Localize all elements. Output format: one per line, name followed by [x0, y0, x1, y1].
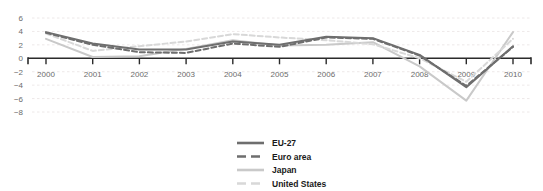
y-axis-tick-label: −8: [14, 108, 24, 117]
x-axis-tick-label: 2002: [131, 70, 149, 79]
line-chart-svg: 6420−2−4−6−8 200020012002200320042005200…: [0, 0, 543, 191]
legend-label-eu-27[interactable]: EU-27: [272, 138, 296, 148]
y-axis-tick-label: −4: [14, 81, 24, 90]
x-axis-tick-label: 2001: [84, 70, 102, 79]
y-axis-tick-label: −2: [14, 68, 24, 77]
series-group: [46, 32, 513, 100]
x-axis-tick-label: 2006: [317, 70, 335, 79]
x-axis-tick-label: 2003: [177, 70, 195, 79]
y-axis-tick-label: 2: [19, 41, 24, 50]
series-line-japan: [46, 32, 513, 100]
gridlines-group: [32, 18, 531, 112]
chart-figure: Figure 1: Real GDP growth rate (% change…: [0, 0, 543, 191]
y-axis-tick-label: 6: [19, 14, 24, 23]
x-axis-tick-label: 2004: [224, 70, 242, 79]
y-axis-tick-label: 0: [19, 54, 24, 63]
legend-label-euro-area[interactable]: Euro area: [272, 152, 311, 162]
x-axis-tick-label: 2000: [37, 70, 55, 79]
legend-group: EU-27Euro areaJapanUnited States: [237, 138, 327, 189]
y-axis-tick-label: −6: [14, 95, 24, 104]
x-axis-tick-label: 2005: [271, 70, 289, 79]
legend-label-japan[interactable]: Japan: [272, 165, 297, 175]
y-axis-tick-label: 4: [19, 27, 24, 36]
y-axis-ticks-group: 6420−2−4−6−8: [14, 14, 24, 117]
x-axis-tick-label: 2010: [504, 70, 522, 79]
legend-label-united-states[interactable]: United States: [272, 179, 327, 189]
x-axis-tick-label: 2007: [364, 70, 382, 79]
